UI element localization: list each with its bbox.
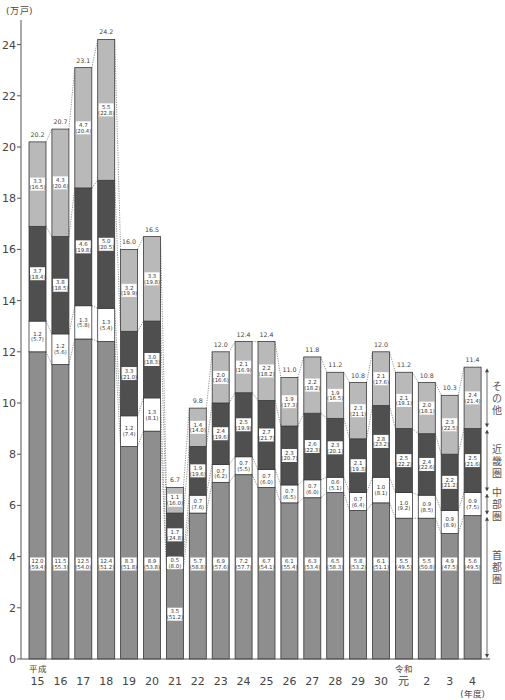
value-label-chubu-region: 0.9(7.5) xyxy=(465,498,480,511)
bar-segment-capital-region xyxy=(373,503,390,659)
y-tick-label: 22 xyxy=(2,90,16,103)
total-label: 12.4 xyxy=(259,331,273,338)
connector-dotted-line xyxy=(367,352,373,383)
value-label-share: (16.0) xyxy=(167,500,183,506)
value-label-share: (19.6) xyxy=(213,434,229,440)
connector-dotted-line xyxy=(412,429,418,434)
value-label-chubu-region: 1.3(5.4) xyxy=(99,318,114,331)
bar-15 xyxy=(350,383,367,659)
connector-dotted-line xyxy=(161,237,167,488)
value-label-capital-region: 12.5(54.0) xyxy=(75,558,91,571)
connector-dotted-line xyxy=(412,372,418,382)
connector-dotted-line xyxy=(138,398,144,416)
value-label-capital-region: 12.0(59.4) xyxy=(29,558,45,571)
connector-dotted-line xyxy=(458,516,464,534)
total-label: 11.4 xyxy=(466,356,480,363)
y-tick-label: 14 xyxy=(2,295,16,308)
total-label: 11.0 xyxy=(282,366,296,373)
y-tick-label: 18 xyxy=(2,192,16,205)
value-label-share: (8.9) xyxy=(443,522,456,528)
bars xyxy=(29,39,481,659)
value-label-other-region: 3.3(16.5) xyxy=(29,178,45,191)
bar-20 xyxy=(464,367,481,659)
connector-dotted-line xyxy=(46,226,52,236)
value-label-share: (16.5) xyxy=(327,395,343,401)
total-label: 20.7 xyxy=(53,118,67,125)
bar-segment-capital-region xyxy=(441,534,458,659)
connector-dotted-line xyxy=(344,493,350,511)
value-label-other-region: 2.2(18.2) xyxy=(258,365,274,378)
value-label-chubu-region: 1.2(7.4) xyxy=(122,425,137,438)
value-label-capital-region: 5.5(49.5) xyxy=(396,558,412,571)
y-tick-label: 24 xyxy=(2,39,16,52)
value-label-share: (53.4) xyxy=(304,564,320,570)
bar-13 xyxy=(304,357,321,659)
connector-dotted-line xyxy=(252,475,258,488)
connector-dotted-line xyxy=(412,493,418,496)
value-label-kinki-region: 2.2(21.2) xyxy=(442,476,458,489)
arrow-up-icon xyxy=(485,494,489,498)
bar-segment-capital-region xyxy=(281,503,298,659)
value-label-share: (19.6) xyxy=(190,471,206,477)
connector-dotted-line xyxy=(138,321,144,331)
value-label-kinki-region: 2.3(20.7) xyxy=(281,449,297,462)
arrow-up-icon xyxy=(485,517,489,521)
value-label-share: (8.1) xyxy=(146,415,159,421)
connector-dotted-line xyxy=(367,406,373,439)
value-label-share: (20.1) xyxy=(327,448,343,454)
x-tick-label: 4 xyxy=(469,675,476,688)
bar-6 xyxy=(144,237,161,659)
value-label-other-region: 2.1(16.9) xyxy=(235,361,251,374)
value-label-chubu-region: 1.0(9.2) xyxy=(396,499,411,512)
x-axis: 15161718192021222324252627282930元234平成令和… xyxy=(21,659,490,699)
connector-dotted-line xyxy=(367,477,373,492)
value-label-capital-region: 11.5(55.3) xyxy=(52,558,68,571)
connector-dotted-line xyxy=(183,513,189,569)
value-label-capital-region: 6.1(51.1) xyxy=(373,558,389,571)
value-label-other-region: 2.3(22.5) xyxy=(442,418,458,431)
bar-segment-capital-region xyxy=(327,493,344,659)
era-label: 平成 xyxy=(29,664,47,674)
value-label-share: (5.6) xyxy=(54,349,67,355)
value-label-share: (49.5) xyxy=(396,564,412,570)
value-label-other-region: 1.9(17.3) xyxy=(281,395,297,408)
y-tick-label: 6 xyxy=(9,499,16,512)
value-label-share: (8.1) xyxy=(375,490,388,496)
connector-dotted-line xyxy=(206,464,212,495)
value-label-kinki-region: 2.6(22.3) xyxy=(304,440,320,453)
value-label-kinki-region: 4.6(19.8) xyxy=(75,240,91,253)
value-label-other-region: 2.0(18.1) xyxy=(419,402,435,415)
value-label-other-region: 5.5(22.8) xyxy=(98,103,114,116)
connector-dotted-line xyxy=(390,477,396,492)
value-label-share: (5.8) xyxy=(77,322,90,328)
connector-dotted-line xyxy=(390,352,396,372)
y-tick-label: 20 xyxy=(2,141,16,154)
value-label-share: (24.8) xyxy=(167,535,183,541)
connector-dotted-line xyxy=(46,352,52,365)
x-tick-label: 20 xyxy=(145,675,159,688)
connector-dotted-line xyxy=(183,495,189,556)
total-label: 10.3 xyxy=(443,384,457,391)
legend-label: 首都圏 xyxy=(492,549,502,585)
bar-8 xyxy=(189,408,206,659)
value-label-share: (53.2) xyxy=(350,564,366,570)
legend-item-capital-region: 首都圏 xyxy=(485,517,502,658)
total-label: 12.0 xyxy=(214,341,228,348)
connector-dotted-line xyxy=(229,475,235,483)
connector-dotted-line xyxy=(69,339,75,365)
bar-18 xyxy=(418,383,435,659)
value-label-share: (50.8) xyxy=(419,564,435,570)
value-label-capital-region: 3.5(51.2) xyxy=(167,608,183,621)
x-tick-label: 22 xyxy=(191,675,205,688)
value-label-chubu-region: 0.7(6.5) xyxy=(282,487,297,500)
value-label-share: (6.0) xyxy=(260,479,273,485)
value-label-chubu-region: 0.7(5.5) xyxy=(236,459,251,472)
x-tick-label: 3 xyxy=(446,675,453,688)
value-label-share: (53.8) xyxy=(144,564,160,570)
value-label-chubu-region: 0.7(6.4) xyxy=(351,495,366,508)
bar-segment-capital-region xyxy=(98,342,115,659)
value-label-share: (8.5) xyxy=(420,507,433,513)
legend-label: 中部圏 xyxy=(492,486,502,522)
value-label-share: (51.2) xyxy=(98,564,114,570)
x-tick-label: 2 xyxy=(423,675,430,688)
